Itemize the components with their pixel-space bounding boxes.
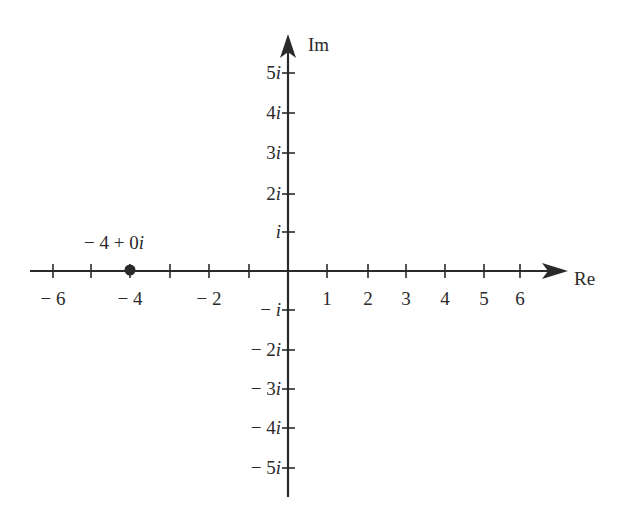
imag-tick-label: 4i [266,102,281,123]
real-tick-label: 2 [363,288,373,309]
imag-tick-label: − 2i [251,339,281,360]
complex-plane-diagram: Re Im − 6 − 4 − 2 1 2 3 4 5 6 5i 4i 3i 2… [0,0,628,526]
imag-tick-label: i [276,221,281,242]
imag-tick-label: − 5i [251,457,281,478]
point-marker-icon [125,265,136,276]
real-tick-label: 6 [515,288,525,309]
imag-tick-label: − 4i [251,417,281,438]
imag-tick-label: − i [260,299,281,320]
imag-tick-label: 5i [266,62,281,83]
real-tick-label: 4 [440,288,450,309]
point-label: − 4 + 0i [84,232,144,253]
real-tick-label: 3 [401,288,411,309]
real-tick-label: 5 [479,288,489,309]
real-tick-label: − 2 [197,288,222,309]
real-tick-label: − 4 [118,288,143,309]
real-axis-label: Re [574,268,595,289]
imag-tick-label: − 3i [251,378,281,399]
imag-tick-label: 3i [266,142,281,163]
real-tick-label: 1 [322,288,332,309]
imag-tick-label: 2i [266,183,281,204]
real-tick-label: − 6 [41,288,66,309]
imaginary-axis-label: Im [308,34,329,55]
